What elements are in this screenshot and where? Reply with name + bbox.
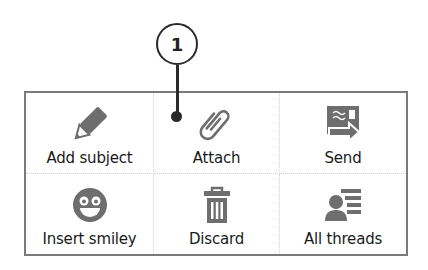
menu-item-all-threads[interactable]: All threads: [280, 174, 406, 254]
callout-line: [176, 65, 179, 115]
menu-item-label: Attach: [193, 149, 241, 167]
smiley-icon: [68, 185, 112, 225]
menu-item-send[interactable]: Send: [280, 93, 406, 174]
menu-item-label: Send: [325, 149, 362, 167]
menu-item-attach[interactable]: Attach: [154, 93, 280, 174]
trash-icon: [195, 185, 239, 225]
threads-icon: [321, 185, 365, 225]
options-menu: Add subject Attach Send: [24, 91, 408, 256]
pencil-icon: [68, 104, 112, 144]
menu-item-label: Discard: [189, 230, 244, 248]
menu-item-discard[interactable]: Discard: [154, 174, 280, 254]
callout-dot: [171, 111, 182, 122]
paperclip-icon: [195, 104, 239, 144]
menu-item-add-subject[interactable]: Add subject: [26, 93, 154, 174]
callout-number: 1: [156, 23, 198, 65]
send-icon: [321, 104, 365, 144]
menu-item-label: All threads: [304, 230, 382, 248]
menu-item-insert-smiley[interactable]: Insert smiley: [26, 174, 154, 254]
menu-item-label: Add subject: [47, 149, 133, 167]
menu-item-label: Insert smiley: [42, 230, 136, 248]
